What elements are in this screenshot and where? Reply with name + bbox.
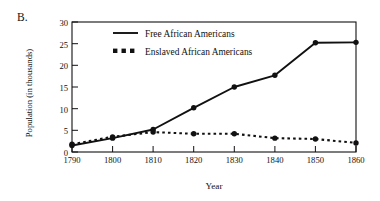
y-axis-title: Population (in thousands) <box>24 23 34 163</box>
data-point <box>69 142 74 147</box>
data-point <box>272 135 277 140</box>
data-point <box>150 129 155 134</box>
data-point <box>191 131 196 136</box>
x-axis-tick-labels: 1790 1800 1810 1820 1830 1840 1850 1860 <box>0 156 380 172</box>
y-tick-label: 30 <box>46 19 68 28</box>
x-tick-label: 1800 <box>93 156 133 165</box>
x-tick-label: 1790 <box>52 156 92 165</box>
data-point <box>191 105 196 110</box>
y-tick-label: 20 <box>46 62 68 71</box>
legend-swatch-dotted <box>113 49 134 53</box>
y-tick-label: 25 <box>46 41 68 50</box>
data-point <box>313 40 318 45</box>
panel-label: B. <box>17 11 28 23</box>
legend-label-enslaved-african-americans: Enslaved African Americans <box>145 47 252 57</box>
x-tick-label: 1830 <box>214 156 254 165</box>
data-point <box>272 73 277 78</box>
y-tick-label: 5 <box>46 127 68 136</box>
y-tick-label: 10 <box>46 106 68 115</box>
x-axis-title: Year <box>72 181 356 191</box>
x-tick-label: 1850 <box>295 156 335 165</box>
legend-label-free-african-americans: Free African Americans <box>145 29 235 39</box>
data-point <box>353 40 358 45</box>
x-tick-label: 1810 <box>133 156 173 165</box>
data-point <box>232 84 237 89</box>
x-tick-marks <box>72 146 356 152</box>
data-point <box>232 131 237 136</box>
data-point <box>313 136 318 141</box>
y-tick-marks <box>72 22 78 152</box>
data-point <box>353 140 358 145</box>
data-point <box>110 134 115 139</box>
y-tick-label: 15 <box>46 84 68 93</box>
figure-panel-b: B. Population (in thousands) Year 0 5 10… <box>0 0 380 201</box>
series-markers-enslaved-african-americans <box>69 129 358 147</box>
series-line-free-african-americans <box>72 42 356 145</box>
x-tick-label: 1820 <box>174 156 214 165</box>
x-tick-label: 1860 <box>336 156 376 165</box>
x-tick-label: 1840 <box>255 156 295 165</box>
